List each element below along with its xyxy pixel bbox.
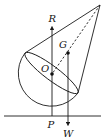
cone-hemisphere-diagram: R G O P W xyxy=(0,0,109,139)
label-g: G xyxy=(59,39,67,50)
point-g-dot xyxy=(66,51,70,55)
label-o: O xyxy=(41,63,49,74)
cone-right-edge xyxy=(78,5,100,93)
label-p: P xyxy=(47,119,55,130)
label-w: W xyxy=(63,128,74,139)
point-o-dot xyxy=(50,72,54,76)
label-r: R xyxy=(48,13,57,24)
